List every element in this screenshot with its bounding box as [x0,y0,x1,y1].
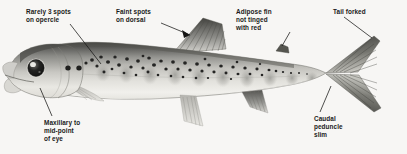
label-line: slim [314,131,343,139]
dorsal-fin [173,18,226,53]
label-faint-spots-on-dorsal: Faint spots on dorsal [116,8,151,24]
label-line: peduncle [314,123,343,131]
eye [27,58,46,77]
label-rarely-3-spots-on-opercle: Rarely 3 spots on opercle [26,8,71,24]
label-tail-forked: Tail forked [333,8,366,16]
label-line: mid-point [44,127,80,135]
pelvic-fin [180,95,203,126]
label-line: of eye [44,135,80,143]
label-line: Caudal [314,115,343,123]
leader-peduncle [320,86,331,112]
leader-tail [344,17,372,38]
anal-fin [242,90,268,113]
label-line: not tinged [236,16,272,24]
leader-adipose [282,32,290,46]
label-line: on dorsal [116,16,151,24]
label-line: on opercle [26,16,71,24]
label-line: Rarely 3 spots [26,8,71,16]
label-line: with red [236,24,272,32]
fish-head [3,44,83,98]
label-line: Faint spots [116,8,151,16]
label-caudal-peduncle-slim: Caudal peduncle slim [314,115,343,139]
label-line: Tail forked [333,8,366,16]
label-line: Adipose fin [236,8,272,16]
fish-identification-figure: Rarely 3 spots on opercle Faint spots on… [0,0,407,154]
label-line: Maxillary to [44,119,80,127]
label-maxillary-to-mid-point-of-eye: Maxillary to mid-point of eye [44,119,80,143]
label-adipose-fin-not-tinged-with-red: Adipose fin not tinged with red [236,8,272,32]
caudal-fin [326,36,381,112]
